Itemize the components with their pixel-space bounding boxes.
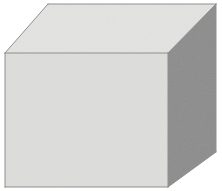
cube-illustration-canvas — [0, 0, 222, 191]
cube-figure — [0, 0, 222, 191]
cube-front-face — [5, 53, 168, 187]
